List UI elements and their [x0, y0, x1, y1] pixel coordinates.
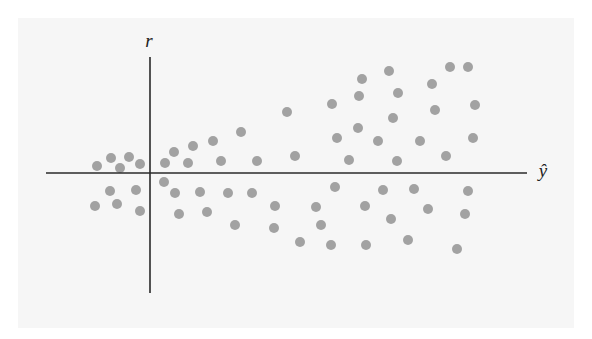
data-point: [208, 136, 218, 146]
data-point: [326, 240, 336, 250]
data-point: [463, 186, 473, 196]
data-point: [388, 113, 398, 123]
data-point: [316, 220, 326, 230]
data-point: [470, 100, 480, 110]
data-point: [373, 136, 383, 146]
data-point: [174, 209, 184, 219]
data-point: [393, 88, 403, 98]
data-point: [183, 158, 193, 168]
data-point: [361, 240, 371, 250]
data-point: [290, 151, 300, 161]
data-point: [160, 158, 170, 168]
data-point: [295, 237, 305, 247]
data-point: [124, 152, 134, 162]
data-point: [384, 66, 394, 76]
data-point: [409, 184, 419, 194]
data-point: [311, 202, 321, 212]
data-point: [247, 188, 257, 198]
data-point: [159, 177, 169, 187]
data-point: [92, 161, 102, 171]
data-point: [90, 201, 100, 211]
data-point: [353, 123, 363, 133]
data-point: [252, 156, 262, 166]
data-point: [270, 201, 280, 211]
data-point: [223, 188, 233, 198]
data-point: [392, 156, 402, 166]
data-point: [344, 155, 354, 165]
data-point: [445, 62, 455, 72]
data-point: [378, 185, 388, 195]
data-point: [282, 107, 292, 117]
data-point: [360, 201, 370, 211]
data-point: [463, 62, 473, 72]
data-point: [105, 186, 115, 196]
data-point: [403, 235, 413, 245]
data-point: [332, 133, 342, 143]
data-point: [452, 244, 462, 254]
data-point: [131, 185, 141, 195]
data-point: [423, 204, 433, 214]
data-point: [135, 159, 145, 169]
data-point: [386, 214, 396, 224]
data-point: [441, 151, 451, 161]
residual-scatter-plot: r ŷ: [0, 0, 592, 339]
data-point: [330, 182, 340, 192]
data-point: [169, 147, 179, 157]
data-point: [430, 105, 440, 115]
data-point: [106, 153, 116, 163]
data-point: [427, 79, 437, 89]
data-point: [415, 136, 425, 146]
data-point: [468, 133, 478, 143]
data-point: [216, 156, 226, 166]
data-point: [115, 163, 125, 173]
data-point: [112, 199, 122, 209]
y-axis-label: r: [145, 30, 153, 51]
data-point: [230, 220, 240, 230]
data-point: [357, 74, 367, 84]
data-point: [202, 207, 212, 217]
x-axis-label: ŷ: [537, 160, 548, 181]
data-point: [170, 188, 180, 198]
data-points: [90, 62, 480, 254]
data-point: [135, 206, 145, 216]
data-point: [354, 91, 364, 101]
data-point: [188, 141, 198, 151]
data-point: [236, 127, 246, 137]
data-point: [460, 209, 470, 219]
data-point: [269, 223, 279, 233]
data-point: [195, 187, 205, 197]
data-point: [327, 99, 337, 109]
